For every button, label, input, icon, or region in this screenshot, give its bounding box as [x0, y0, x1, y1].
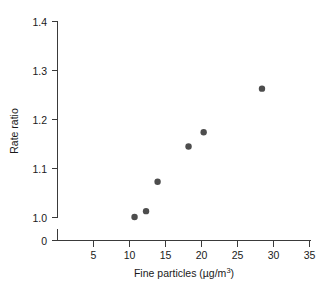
y-axis-title: Rate ratio — [8, 108, 20, 154]
x-axis-ticks — [94, 241, 310, 247]
x-tick-label-30: 30 — [268, 249, 280, 261]
x-axis-title: Fine particles (µg/m3) — [134, 266, 234, 279]
y-tick-label-1.4: 1.4 — [32, 16, 47, 28]
data-point-5 — [259, 85, 265, 91]
x-tick-label-10: 10 — [124, 249, 136, 261]
y-tick-label-0: 0 — [41, 235, 47, 247]
y-tick-label-1.2: 1.2 — [32, 114, 47, 126]
x-axis-tick-labels: 5 10 15 20 25 30 35 — [91, 249, 316, 261]
x-tick-label-35: 35 — [304, 249, 316, 261]
data-point-3 — [185, 143, 191, 149]
data-point-4 — [200, 129, 206, 135]
x-axis-title-main: Fine particles (µg/m — [134, 267, 227, 279]
data-point-0 — [131, 214, 137, 220]
x-tick-label-5: 5 — [91, 249, 97, 261]
x-tick-label-15: 15 — [160, 249, 172, 261]
data-point-1 — [143, 208, 149, 214]
x-tick-label-20: 20 — [196, 249, 208, 261]
chart-canvas: 1.4 1.3 1.2 1.1 1.0 0 5 10 15 20 25 30 3… — [0, 0, 325, 288]
x-tick-label-25: 25 — [232, 249, 244, 261]
y-tick-label-1.1: 1.1 — [32, 163, 47, 175]
scatter-chart-figure: 1.4 1.3 1.2 1.1 1.0 0 5 10 15 20 25 30 3… — [0, 0, 325, 288]
x-axis-title-close: ) — [231, 267, 235, 279]
y-tick-label-1.3: 1.3 — [32, 65, 47, 77]
data-point-2 — [154, 179, 160, 185]
y-tick-label-1.0: 1.0 — [32, 212, 47, 224]
scatter-points-group — [131, 85, 265, 220]
y-axis-tick-labels: 1.4 1.3 1.2 1.1 1.0 0 — [32, 16, 47, 247]
y-axis-ticks — [52, 22, 58, 241]
